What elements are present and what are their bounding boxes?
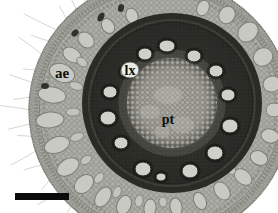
label-lx: lx	[125, 63, 136, 78]
label-pt: pt	[162, 112, 175, 127]
scale-bar	[15, 193, 69, 200]
micrograph-frame: ae lx pt	[0, 0, 278, 213]
label-ae: ae	[55, 65, 70, 81]
root-cross-section-micrograph: ae lx pt	[0, 0, 278, 213]
